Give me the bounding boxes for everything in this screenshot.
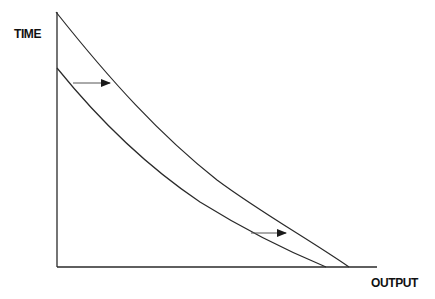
diagram-canvas <box>0 0 435 299</box>
x-axis-label: OUTPUT <box>371 277 418 289</box>
y-axis-label: TIME <box>14 28 41 40</box>
curve-shift-diagram: TIME OUTPUT <box>0 0 435 299</box>
outer-curve <box>56 12 349 267</box>
inner-curve <box>57 68 326 267</box>
